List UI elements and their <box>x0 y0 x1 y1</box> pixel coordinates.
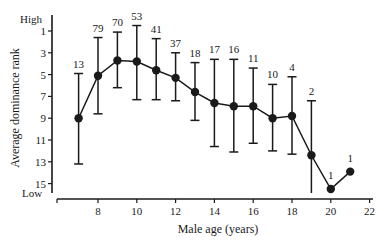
x-tick-label: 12 <box>170 205 181 217</box>
y-axis-title: Average dominance rank <box>8 48 22 168</box>
y-tick-label: 9 <box>41 112 47 124</box>
sample-size-label: 70 <box>112 16 124 28</box>
data-point <box>249 102 257 110</box>
sample-size-label: 13 <box>73 58 85 70</box>
data-point <box>152 66 160 74</box>
x-tick-label: 22 <box>364 205 375 217</box>
data-point <box>94 71 102 79</box>
x-axis-title: Male age (years) <box>178 222 259 236</box>
data-point <box>133 57 141 65</box>
sample-size-label: 79 <box>93 22 105 34</box>
sample-size-label: 11 <box>248 52 259 64</box>
y-tick-label: 5 <box>41 69 47 81</box>
x-tick-label: 16 <box>248 205 260 217</box>
y-axis: 13579111315 <box>35 15 52 193</box>
dominance-rank-chart: 13579111315 810121416182022 137970534137… <box>0 0 388 247</box>
data-point <box>113 56 121 64</box>
sample-size-label: 53 <box>131 10 143 22</box>
y-tick-label: 7 <box>41 90 47 102</box>
x-tick-label: 18 <box>287 205 299 217</box>
y-high-label: High <box>20 13 43 25</box>
x-tick-label: 14 <box>209 205 221 217</box>
sample-size-label: 4 <box>289 61 295 73</box>
x-axis: 810121416182022 <box>57 199 375 217</box>
data-point <box>74 114 82 122</box>
sample-size-label: 1 <box>328 169 334 181</box>
sample-size-label: 2 <box>309 85 315 97</box>
sample-size-label: 1 <box>347 152 353 164</box>
data-point <box>171 74 179 82</box>
data-point <box>268 114 276 122</box>
y-tick-label: 11 <box>35 134 46 146</box>
data-point <box>288 112 296 120</box>
sample-size-label: 10 <box>267 68 279 80</box>
y-tick-label: 1 <box>41 25 47 37</box>
sample-size-label: 16 <box>228 43 240 55</box>
sample-size-label: 17 <box>209 43 221 55</box>
data-point <box>191 88 199 96</box>
data-point <box>230 102 238 110</box>
x-tick-label: 20 <box>325 205 337 217</box>
sample-size-label: 18 <box>190 47 202 59</box>
data-point <box>327 185 335 193</box>
x-tick-label: 8 <box>95 205 101 217</box>
y-tick-label: 3 <box>41 47 47 59</box>
data-point <box>307 151 315 159</box>
data-point <box>210 99 218 107</box>
y-tick-label: 13 <box>35 156 47 168</box>
sample-size-label: 41 <box>151 23 162 35</box>
y-low-label: Low <box>22 187 42 199</box>
x-tick-label: 10 <box>131 205 143 217</box>
sample-size-label: 37 <box>170 37 182 49</box>
data-point <box>346 167 354 175</box>
